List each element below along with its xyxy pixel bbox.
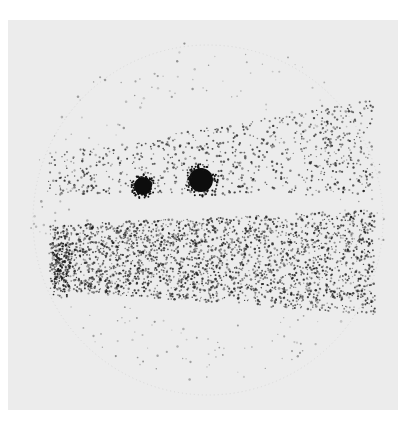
running-header: [0, 0, 412, 6]
scintigram-figure: [8, 20, 398, 410]
scintigram-image: [8, 20, 398, 410]
count-dots: [30, 42, 385, 380]
